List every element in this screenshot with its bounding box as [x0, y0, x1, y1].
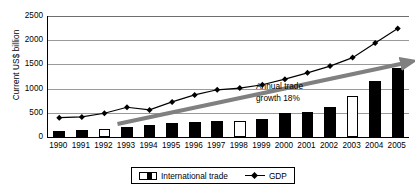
bar-swatch-icon — [139, 172, 157, 180]
gdp-data-point — [395, 26, 401, 32]
y-tick-label: 1000 — [13, 85, 43, 93]
x-tick-label: 2005 — [382, 141, 412, 150]
y-tick-label: 2000 — [13, 36, 43, 44]
y-tick-label: 1500 — [13, 60, 43, 68]
gdp-data-point — [327, 63, 333, 69]
gdp-data-point — [101, 110, 107, 116]
gdp-data-point — [79, 114, 85, 120]
y-tick-label: 500 — [13, 109, 43, 117]
y-axis-tick-labels: 25002000150010005000 — [13, 10, 43, 142]
gdp-data-point — [372, 40, 378, 46]
legend-label-gdp: GDP — [269, 171, 287, 181]
gdp-data-point — [56, 115, 62, 121]
gdp-data-point — [237, 85, 243, 91]
legend-item-international-trade: International trade — [139, 171, 228, 181]
trend-annotation-line1: Annual trade — [256, 81, 348, 93]
gdp-data-point — [169, 99, 175, 105]
legend-item-gdp: GDP — [245, 171, 287, 181]
y-tick-label: 2500 — [13, 12, 43, 20]
x-axis-tick-labels: 1990199119921993199419951996199719981999… — [47, 141, 408, 155]
gdp-data-point — [147, 107, 153, 113]
line-diamond-icon — [245, 171, 265, 180]
legend-label-international-trade: International trade — [161, 171, 228, 181]
trend-annotation-text: Annual trade growth 18% — [256, 81, 348, 104]
gdp-data-point — [192, 92, 198, 98]
plot-area: Annual trade growth 18% — [47, 16, 409, 138]
gdp-data-point — [304, 70, 310, 76]
chart-figure: Current US$ billion 25002000150010005000… — [0, 0, 415, 194]
line-series-gdp — [48, 16, 409, 137]
gdp-data-point — [214, 87, 220, 93]
trend-annotation-line2: growth 18% — [256, 93, 348, 105]
gdp-data-point — [350, 55, 356, 61]
y-tick-label: 0 — [13, 133, 43, 141]
gdp-data-point — [124, 104, 130, 110]
chart-legend: International trade GDP — [131, 167, 295, 184]
